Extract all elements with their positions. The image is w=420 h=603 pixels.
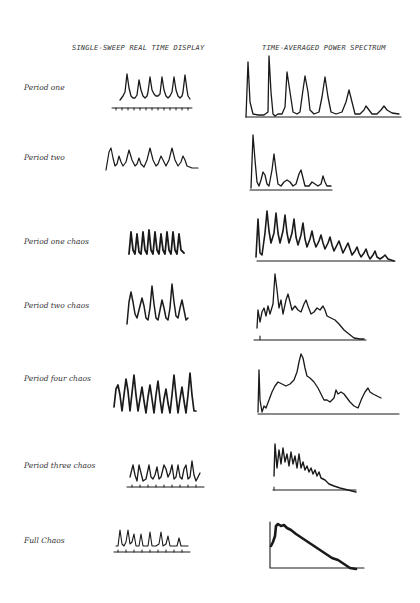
spectrum-period-one xyxy=(244,52,404,122)
time-trace-period-three-chaos xyxy=(124,455,208,497)
spectrum-period-one-chaos xyxy=(254,203,402,265)
spectrum-period-four-chaos xyxy=(254,350,404,422)
row-label-period-one: Period one xyxy=(24,83,65,92)
row-label-period-three-chaos: Period three chaos xyxy=(24,461,95,470)
spectrum-period-two xyxy=(248,130,338,195)
row-label-period-two: Period two xyxy=(24,153,65,162)
time-trace-full-chaos xyxy=(112,528,198,558)
row-label-period-four-chaos: Period four chaos xyxy=(24,374,91,383)
spectrum-full-chaos xyxy=(268,520,372,570)
spectrum-period-two-chaos xyxy=(252,270,372,342)
time-trace-period-four-chaos xyxy=(110,355,200,425)
time-trace-period-one xyxy=(110,68,200,118)
header-real-time-display: SINGLE-SWEEP REAL TIME DISPLAY xyxy=(72,44,204,52)
header-power-spectrum: TIME-AVERAGED POWER SPECTRUM xyxy=(262,44,386,52)
row-label-period-one-chaos: Period one chaos xyxy=(24,237,89,246)
row-label-period-two-chaos: Period two chaos xyxy=(24,301,89,310)
spectrum-period-three-chaos xyxy=(270,440,370,495)
row-label-full-chaos: Full Chaos xyxy=(24,536,65,545)
time-trace-period-two-chaos xyxy=(124,280,194,332)
time-trace-period-one-chaos xyxy=(126,222,192,262)
time-trace-period-two xyxy=(104,140,210,180)
